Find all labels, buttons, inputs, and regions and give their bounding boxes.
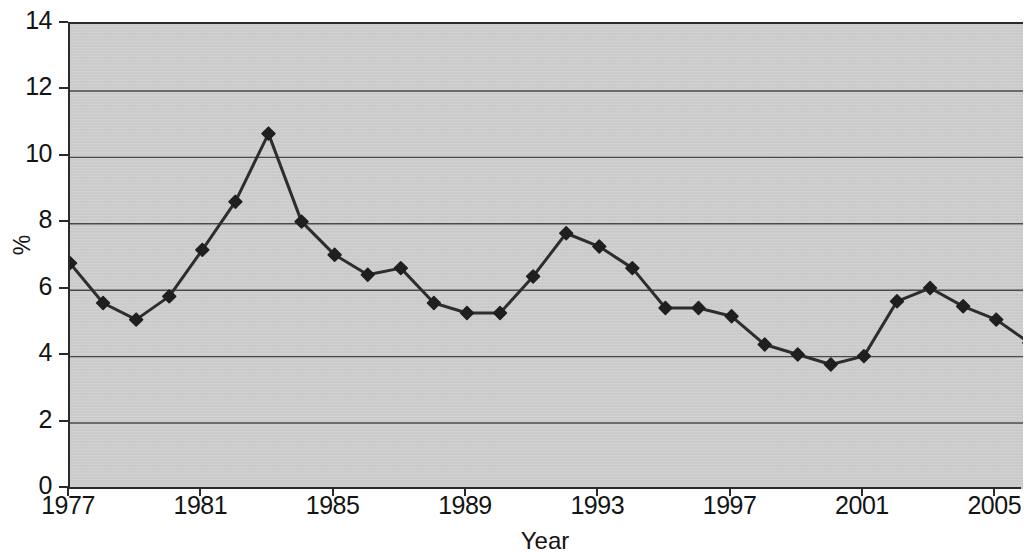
x-tick-label: 1985 [306, 492, 360, 519]
plot-area [68, 22, 1023, 489]
data-point-marker [791, 348, 804, 361]
x-tick-label: 1997 [703, 492, 757, 519]
y-tick-mark [59, 287, 68, 289]
data-point-marker [891, 295, 904, 308]
y-tick-mark [59, 21, 68, 23]
y-tick-label: 14 [0, 8, 52, 33]
data-point-marker [858, 350, 871, 363]
data-markers [70, 127, 1023, 371]
y-tick-mark [59, 353, 68, 355]
data-point-marker [692, 302, 705, 315]
data-point-marker [361, 268, 374, 281]
y-tick-mark [59, 420, 68, 422]
x-tick-label: 1981 [174, 492, 228, 519]
x-tick-label: 1989 [438, 492, 492, 519]
y-axis-title: % [9, 225, 35, 265]
gridlines [70, 91, 1023, 489]
y-tick-mark [59, 220, 68, 222]
y-tick-label: 4 [0, 340, 52, 365]
plot-svg [70, 24, 1023, 489]
y-tick-label: 2 [0, 407, 52, 432]
y-tick-label: 6 [0, 274, 52, 299]
data-point-marker [461, 307, 474, 320]
y-tick-mark [59, 87, 68, 89]
y-tick-label: 10 [0, 141, 52, 166]
y-tick-label: 12 [0, 74, 52, 99]
x-tick-label: 2001 [835, 492, 889, 519]
y-tick-mark [59, 154, 68, 156]
data-point-marker [924, 282, 937, 295]
data-line [70, 134, 1023, 365]
data-point-marker [824, 358, 837, 371]
x-tick-label: 2005 [967, 492, 1021, 519]
x-axis-title: Year [0, 528, 1027, 552]
x-tick-label: 1977 [41, 492, 95, 519]
data-point-marker [957, 300, 970, 313]
x-tick-label: 1993 [570, 492, 624, 519]
data-point-marker [262, 127, 275, 140]
x-axis-line [68, 487, 1021, 489]
